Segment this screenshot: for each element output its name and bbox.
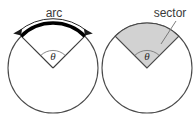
right-sector-figure: θ sector	[102, 6, 192, 113]
arc-label: arc	[46, 6, 63, 20]
left-highlighted-arc	[21, 23, 85, 36]
figure-canvas: θ arc θ sector	[0, 0, 193, 116]
left-arc-figure: θ arc	[8, 6, 98, 113]
right-theta-label: θ	[144, 50, 150, 62]
left-radius-right	[53, 36, 85, 68]
arc-arrow-head-right	[84, 28, 93, 35]
left-radius-left	[21, 36, 53, 68]
arc-arrow-head-left	[13, 28, 22, 35]
left-theta-label: θ	[50, 50, 56, 62]
circle-diagram-svg: θ arc θ sector	[0, 0, 193, 116]
sector-label: sector	[154, 6, 187, 20]
